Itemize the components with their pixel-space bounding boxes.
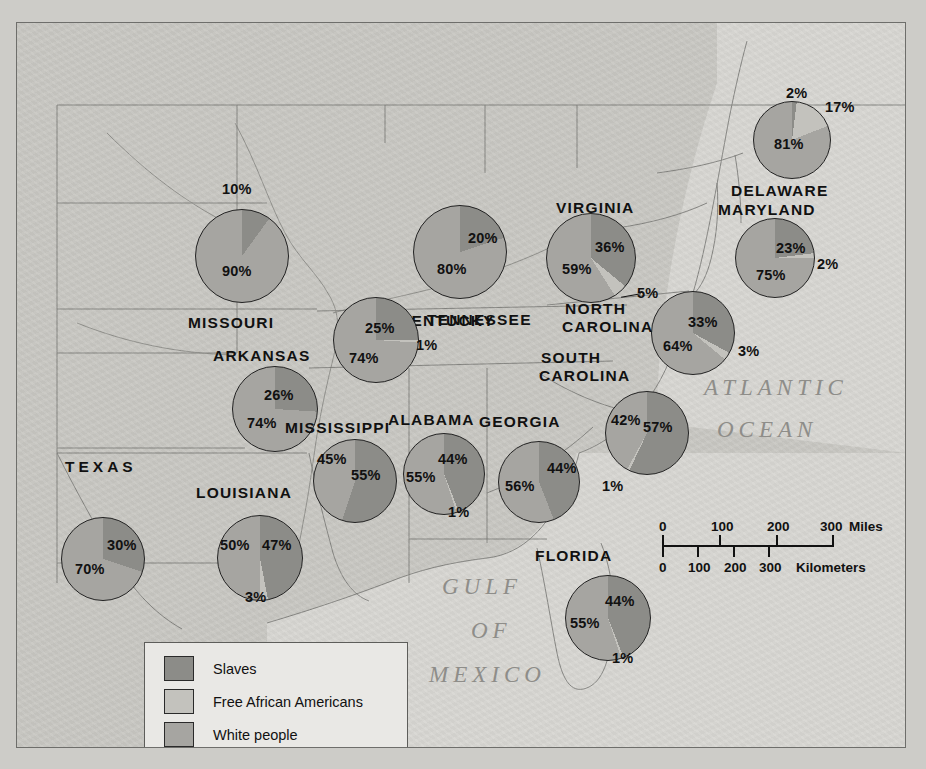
scale-miles-unit: Miles	[849, 519, 883, 534]
pie-label-virginia-slaves: 36%	[595, 239, 625, 255]
legend-swatch-slaves	[164, 656, 194, 681]
ocean-label-gulf-line1: GULF	[442, 574, 522, 600]
ocean-label-atlantic-line2: OCEAN	[717, 417, 817, 443]
state-label-south-carolina-line2: CAROLINA	[539, 367, 630, 385]
scale-miles-tick-300: 300	[820, 519, 843, 534]
state-label-south-carolina-line1: SOUTH	[541, 349, 601, 367]
pie-texas	[61, 517, 145, 601]
pie-label-mississippi-white: 45%	[317, 451, 347, 467]
scale-km-tick-100: 100	[688, 560, 711, 575]
pie-label-alabama-free: 1%	[448, 504, 469, 520]
scale-km-tickmark-200	[733, 546, 735, 557]
pie-missouri	[195, 209, 289, 303]
pie-north-carolina	[651, 291, 735, 375]
ocean-label-atlantic-line1: ATLANTIC	[704, 375, 848, 401]
legend-item-white-people: White people	[164, 722, 298, 747]
state-label-mississippi: MISSISSIPPI	[285, 419, 390, 437]
state-label-georgia: GEORGIA	[479, 413, 561, 431]
pie-label-alabama-slaves: 44%	[438, 451, 468, 467]
scale-km-tickmark-100	[697, 546, 699, 557]
pie-label-missouri-slaves: 10%	[222, 181, 252, 197]
legend-label-white-people: White people	[213, 727, 298, 743]
pie-label-nc-white: 64%	[663, 338, 693, 354]
scale-miles-tick-200: 200	[767, 519, 790, 534]
state-label-north-carolina-line2: CAROLINA	[562, 318, 653, 336]
pie-label-maryland-free: 2%	[817, 256, 838, 272]
scale-km-tickmark-0	[662, 546, 664, 557]
ocean-label-gulf-line3: MEXICO	[429, 662, 546, 688]
legend-swatch-free-african-americans	[164, 689, 194, 714]
pie-label-sc-slaves: 57%	[643, 419, 673, 435]
pie-label-tennessee-white: 74%	[349, 350, 379, 366]
state-label-north-carolina-line1: NORTH	[565, 300, 626, 318]
pie-label-texas-slaves: 30%	[107, 537, 137, 553]
pie-label-maryland-white: 75%	[756, 267, 786, 283]
pie-label-louisiana-free: 3%	[245, 589, 266, 605]
pie-label-maryland-slaves: 23%	[776, 240, 806, 256]
legend-label-free-african-americans: Free African Americans	[213, 694, 363, 710]
scale-miles-tickmark-200	[776, 535, 778, 547]
pie-label-georgia-slaves: 44%	[547, 460, 577, 476]
scale-axis	[662, 545, 834, 547]
pie-label-kentucky-slaves: 20%	[468, 230, 498, 246]
scale-miles-tickmark-300	[832, 535, 834, 547]
pie-label-nc-slaves: 33%	[688, 314, 718, 330]
scale-miles-tick-0: 0	[659, 519, 667, 534]
pie-label-florida-white: 55%	[570, 615, 600, 631]
map-figure: 10% 90% MISSOURI 20% 80% KENTUCKY 36% 59…	[0, 0, 926, 769]
scale-km-tick-0: 0	[659, 560, 667, 575]
pie-kentucky	[413, 205, 507, 299]
pie-label-florida-slaves: 44%	[605, 593, 635, 609]
state-label-texas: TEXAS	[65, 458, 137, 476]
pie-label-sc-white: 42%	[611, 412, 641, 428]
pie-maryland	[735, 218, 815, 298]
pie-tennessee	[333, 297, 419, 383]
scale-miles-tickmark-100	[719, 535, 721, 547]
legend: Slaves Free African Americans White peop…	[144, 642, 408, 748]
scale-km-unit: Kilometers	[796, 560, 866, 575]
pie-arkansas	[232, 366, 318, 452]
state-label-tennessee: TENNESSEE	[427, 311, 532, 329]
pie-label-louisiana-slaves: 47%	[262, 537, 292, 553]
pie-label-virginia-white: 59%	[562, 261, 592, 277]
pie-label-delaware-white: 81%	[774, 136, 804, 152]
pie-label-missouri-white: 90%	[222, 263, 252, 279]
ocean-label-gulf-line2: OF	[471, 618, 512, 644]
legend-swatch-white-people	[164, 722, 194, 747]
pie-label-florida-free: 1%	[612, 650, 633, 666]
pie-label-texas-white: 70%	[75, 561, 105, 577]
pie-label-kentucky-white: 80%	[437, 261, 467, 277]
legend-label-slaves: Slaves	[213, 661, 257, 677]
legend-item-slaves: Slaves	[164, 656, 257, 681]
pie-label-louisiana-white: 50%	[220, 537, 250, 553]
state-label-virginia: VIRGINIA	[556, 199, 635, 217]
state-label-missouri: MISSOURI	[188, 314, 274, 332]
pie-virginia	[546, 213, 636, 303]
state-label-delaware: DELAWARE	[731, 182, 828, 200]
map-frame: 10% 90% MISSOURI 20% 80% KENTUCKY 36% 59…	[16, 22, 906, 748]
state-label-alabama: ALABAMA	[388, 411, 475, 429]
pie-label-arkansas-white: 74%	[247, 415, 277, 431]
pie-label-delaware-free: 17%	[825, 99, 855, 115]
pie-label-arkansas-slaves: 26%	[264, 387, 294, 403]
scale-km-tick-300: 300	[759, 560, 782, 575]
pie-label-nc-free: 3%	[738, 343, 759, 359]
pie-label-sc-free: 1%	[602, 478, 623, 494]
pie-label-georgia-white: 56%	[505, 478, 535, 494]
state-label-maryland: MARYLAND	[718, 201, 816, 219]
state-label-louisiana: LOUISIANA	[196, 484, 292, 502]
state-label-florida: FLORIDA	[535, 547, 612, 565]
state-label-arkansas: ARKANSAS	[213, 347, 310, 365]
scale-km-tickmark-300	[768, 546, 770, 557]
pie-label-tennessee-free: 1%	[416, 337, 437, 353]
legend-item-free-african-americans: Free African Americans	[164, 689, 363, 714]
pie-label-mississippi-slaves: 55%	[351, 467, 381, 483]
pie-label-tennessee-slaves: 25%	[365, 320, 395, 336]
scale-miles-tick-100: 100	[711, 519, 734, 534]
scale-km-tick-200: 200	[724, 560, 747, 575]
pie-label-alabama-white: 55%	[406, 469, 436, 485]
pie-label-delaware-slaves: 2%	[786, 85, 807, 101]
scale-bar: 0 100 200 300 Miles 0 100 200 300 Kilome…	[657, 519, 897, 583]
